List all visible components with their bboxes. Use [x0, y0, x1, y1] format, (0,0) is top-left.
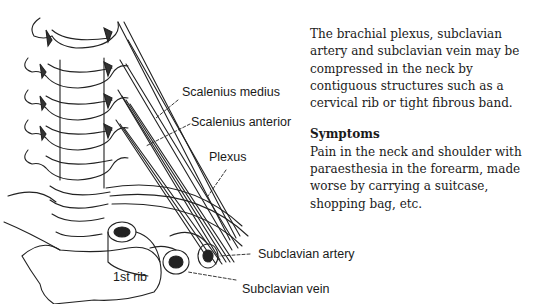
- label-subclavian-vein: Subclavian vein: [242, 282, 330, 296]
- label-scalenius-anterior: Scalenius anterior: [191, 115, 291, 129]
- symptoms-paragraph: Pain in the neck and shoulder with parae…: [310, 144, 540, 213]
- first-rib-icon: [4, 222, 161, 304]
- intro-paragraph: The brachial plexus, subclavian artery a…: [310, 26, 540, 112]
- symptoms-heading: Symptoms: [310, 126, 540, 143]
- cervical-spine-icon: [8, 18, 128, 237]
- label-plexus: Plexus: [209, 150, 247, 164]
- label-first-rib: 1st rib: [113, 270, 147, 284]
- plexus-icon: [106, 185, 248, 246]
- body-text: The brachial plexus, subclavian artery a…: [310, 26, 540, 213]
- label-scalenius-medius: Scalenius medius: [182, 85, 280, 99]
- label-subclavian-artery: Subclavian artery: [258, 247, 355, 261]
